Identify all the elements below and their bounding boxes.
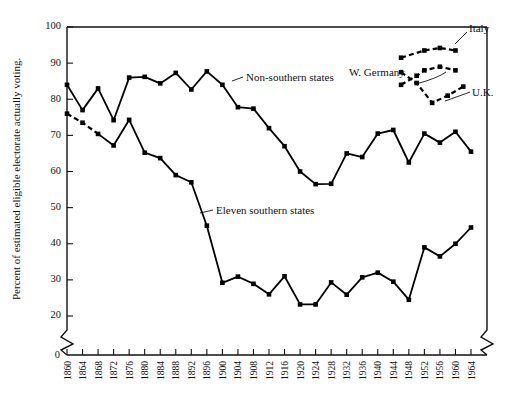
data-point-non-southern xyxy=(173,71,178,76)
x-tick-label: 1936 xyxy=(358,361,368,380)
data-point-eleven-southern xyxy=(298,302,303,307)
x-tick-label: 1948 xyxy=(404,361,414,380)
data-point-non-southern xyxy=(313,182,318,187)
data-point-non-southern xyxy=(298,169,303,174)
x-tick-label: 1892 xyxy=(187,361,197,380)
x-tick-label: 1932 xyxy=(342,361,352,380)
data-point-eleven-southern xyxy=(236,274,241,279)
data-point-non-southern xyxy=(469,149,474,154)
y-axis-with-break xyxy=(61,27,73,355)
annotation-leaders xyxy=(200,32,470,213)
data-point-non-southern xyxy=(65,83,70,88)
y-tick-label: 80 xyxy=(51,93,62,104)
data-point-non-southern xyxy=(360,155,365,160)
x-tick-label: 1880 xyxy=(140,361,150,380)
x-tick-label: 1944 xyxy=(389,361,399,380)
data-point-italy xyxy=(422,48,427,53)
data-point-non-southern xyxy=(438,140,443,145)
y-tick-label: 70 xyxy=(51,129,62,140)
x-tick-label: 1940 xyxy=(373,361,383,380)
data-point-u-k xyxy=(445,93,450,98)
data-point-eleven-southern xyxy=(375,270,380,275)
data-point-italy xyxy=(453,48,458,53)
label-w-germany: W. Germany xyxy=(349,66,405,78)
x-tick-label: 1960 xyxy=(451,361,461,380)
series-line-italy xyxy=(401,48,455,58)
x-tick-label: 1872 xyxy=(109,361,119,380)
data-point-non-southern xyxy=(142,75,147,80)
data-point-non-southern xyxy=(158,81,163,86)
data-point-eleven-southern xyxy=(453,241,458,246)
series-line-w-germany xyxy=(401,67,455,85)
chart-canvas: 1009080706050403020 18601864186818721876… xyxy=(0,0,522,412)
y-tick-label: 20 xyxy=(51,309,62,320)
y-tick-group: 1009080706050403020 xyxy=(45,20,73,320)
data-point-eleven-southern xyxy=(189,180,194,185)
data-point-eleven-southern xyxy=(142,150,147,155)
x-tick-label: 1920 xyxy=(296,361,306,380)
leader-italy xyxy=(455,32,467,44)
right-axis-with-break xyxy=(481,27,493,355)
leader-w-germany xyxy=(416,72,446,84)
x-tick-label: 1956 xyxy=(435,361,445,380)
data-point-non-southern xyxy=(111,118,116,123)
data-point-non-southern xyxy=(220,83,225,88)
data-point-u-k xyxy=(461,84,466,89)
data-point-u-k xyxy=(430,101,435,106)
x-tick-label: 1964 xyxy=(467,361,477,380)
data-point-non-southern xyxy=(422,131,427,136)
data-point-eleven-southern xyxy=(251,282,256,287)
y-tick-label: 50 xyxy=(51,201,62,212)
data-point-w-germany xyxy=(422,68,427,73)
data-point-non-southern xyxy=(251,106,256,111)
x-tick-label: 1916 xyxy=(280,361,290,380)
data-point-eleven-southern xyxy=(158,156,163,161)
data-point-non-southern xyxy=(282,144,287,149)
data-point-non-southern xyxy=(407,160,412,165)
data-point-non-southern xyxy=(375,131,380,136)
label-italy: Italy xyxy=(469,22,490,34)
data-point-eleven-southern xyxy=(407,297,412,302)
data-point-eleven-southern xyxy=(96,132,101,137)
data-point-w-germany xyxy=(414,73,419,78)
data-point-eleven-southern xyxy=(111,143,116,148)
y-axis-title: Percent of estimated eligible electorate… xyxy=(10,58,22,300)
leader-non-southern xyxy=(232,77,243,81)
data-point-eleven-southern xyxy=(360,275,365,280)
x-tick-label: 1868 xyxy=(94,361,104,380)
data-point-eleven-southern xyxy=(267,292,272,297)
y-tick-label: 40 xyxy=(51,237,62,248)
data-point-eleven-southern xyxy=(282,274,287,279)
data-point-non-southern xyxy=(189,87,194,92)
data-point-non-southern xyxy=(127,75,132,80)
data-point-non-southern xyxy=(80,108,85,113)
y-zero-label: 0 xyxy=(55,349,60,360)
x-tick-label: 1952 xyxy=(420,361,430,380)
data-point-eleven-southern xyxy=(391,279,396,284)
y-tick-label: 90 xyxy=(51,57,62,68)
x-tick-label: 1908 xyxy=(249,361,259,380)
x-tick-label: 1924 xyxy=(311,361,321,380)
x-tick-label: 1888 xyxy=(171,361,181,380)
data-point-eleven-southern xyxy=(173,173,178,178)
data-point-non-southern xyxy=(344,151,349,156)
label-eleven-southern: Eleven southern states xyxy=(216,204,314,216)
data-point-eleven-southern xyxy=(313,302,318,307)
data-point-non-southern xyxy=(236,105,241,110)
x-tick-label: 1904 xyxy=(233,361,243,380)
x-tick-label: 1864 xyxy=(78,361,88,380)
data-point-italy xyxy=(399,55,404,60)
series-layer xyxy=(65,46,474,307)
data-point-eleven-southern xyxy=(127,118,132,123)
data-point-eleven-southern xyxy=(422,245,427,250)
x-tick-label: 1860 xyxy=(63,361,73,380)
label-uk: U.K. xyxy=(472,86,494,98)
data-point-non-southern xyxy=(329,181,334,186)
data-point-non-southern xyxy=(205,69,210,74)
data-point-eleven-southern xyxy=(469,225,474,230)
data-point-w-germany xyxy=(399,83,404,88)
data-point-non-southern xyxy=(391,128,396,133)
data-point-eleven-southern xyxy=(205,223,210,228)
x-tick-label: 1912 xyxy=(265,361,275,380)
y-tick-label: 30 xyxy=(51,273,62,284)
